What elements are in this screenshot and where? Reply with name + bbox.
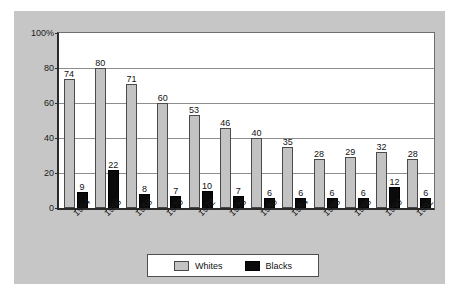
bar-group: 296 <box>340 33 371 208</box>
bar-whites-1992: 28 <box>407 159 418 208</box>
bar-value-label: 7 <box>236 186 241 196</box>
bar-value-label: 7 <box>173 186 178 196</box>
bar-value-label: 28 <box>314 149 324 159</box>
bar-value-label: 12 <box>390 177 400 187</box>
bar-whites-1990: 32 <box>376 152 387 208</box>
bar-whites-1968: 71 <box>126 84 137 208</box>
bar-value-label: 53 <box>189 105 199 115</box>
bar-whites-1988: 29 <box>345 157 356 208</box>
bar-whites-1986: 28 <box>314 159 325 208</box>
bar-value-label: 35 <box>283 137 293 147</box>
bar-group: 356 <box>278 33 309 208</box>
legend-label: Blacks <box>266 261 293 271</box>
bar-value-label: 46 <box>220 118 230 128</box>
bar-value-label: 6 <box>330 188 335 198</box>
bar-value-label: 9 <box>80 182 85 192</box>
y-axis-tick-label: 40 <box>44 133 54 143</box>
bar-value-label: 8 <box>142 184 147 194</box>
bar-whites-1966: 80 <box>95 68 106 208</box>
chart-figure: 020406080100% 74980227186075310467406356… <box>14 11 445 284</box>
bar-whites-1976: 46 <box>220 128 231 209</box>
legend-swatch-whites <box>174 261 189 271</box>
bar-group: 5310 <box>184 33 215 208</box>
bar-value-label: 22 <box>108 160 118 170</box>
bar-group: 8022 <box>90 33 121 208</box>
bar-whites-1970: 60 <box>157 103 168 208</box>
bar-group: 718 <box>122 33 153 208</box>
legend-swatch-blacks <box>245 261 260 271</box>
y-axis-tick-mark <box>55 208 59 209</box>
bar-group: 3212 <box>372 33 403 208</box>
y-axis-tick-label: 100% <box>31 28 54 38</box>
chart-legend: WhitesBlacks <box>147 254 319 277</box>
legend-item-blacks: Blacks <box>245 261 293 271</box>
bar-whites-1984: 35 <box>282 147 293 208</box>
bar-whites-1980: 40 <box>251 138 262 208</box>
y-axis-tick-label: 0 <box>49 203 54 213</box>
bar-group: 607 <box>153 33 184 208</box>
bar-whites-1972: 53 <box>189 115 200 208</box>
legend-item-whites: Whites <box>174 261 223 271</box>
bar-group: 406 <box>247 33 278 208</box>
bar-group: 286 <box>309 33 340 208</box>
bar-value-label: 32 <box>377 142 387 152</box>
bar-value-label: 29 <box>345 147 355 157</box>
y-axis-tick-label: 80 <box>44 63 54 73</box>
bar-whites-1964: 74 <box>64 79 75 209</box>
bar-group: 286 <box>403 33 434 208</box>
bar-value-label: 80 <box>95 58 105 68</box>
bar-value-label: 74 <box>64 69 74 79</box>
bar-value-label: 40 <box>252 128 262 138</box>
bar-value-label: 10 <box>202 181 212 191</box>
legend-label: Whites <box>195 261 223 271</box>
bar-value-label: 60 <box>158 93 168 103</box>
bar-value-label: 28 <box>408 149 418 159</box>
y-axis-tick-label: 60 <box>44 98 54 108</box>
bar-value-label: 71 <box>127 74 137 84</box>
bar-group: 467 <box>215 33 246 208</box>
plot-area: 020406080100% 74980227186075310467406356… <box>57 32 435 210</box>
bar-group: 749 <box>59 33 90 208</box>
y-axis-tick-label: 20 <box>44 168 54 178</box>
